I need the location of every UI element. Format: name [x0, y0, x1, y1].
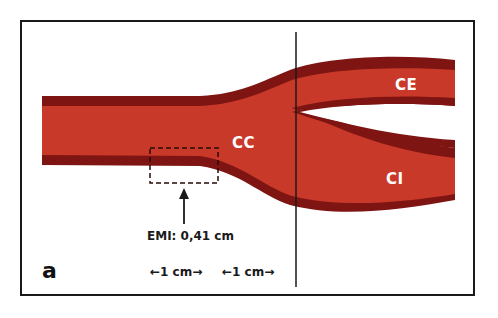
label-cc: CC	[232, 134, 255, 152]
scale-segment-2: ←1 cm→	[222, 265, 274, 279]
pointer-arrow-head	[179, 188, 189, 199]
label-ce: CE	[395, 76, 417, 94]
panel-label: a	[42, 258, 57, 283]
emi-measurement-label: EMI: 0,41 cm	[147, 229, 234, 243]
label-ci: CI	[386, 170, 404, 188]
scale-segment-1: ←1 cm→	[150, 265, 202, 279]
